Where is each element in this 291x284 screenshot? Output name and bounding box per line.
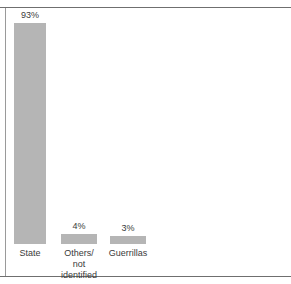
bar-value-label-others: 4% xyxy=(72,221,85,231)
bar-category-label-guerrillas: Guerrillas xyxy=(109,248,148,259)
bar-chart-figure: 93% State 4% Others/ not identified 3% G… xyxy=(0,0,291,284)
bar-rect-others xyxy=(61,234,97,244)
bar-category-label-others: Others/ not identified xyxy=(61,248,97,281)
bar-value-label-state: 93% xyxy=(21,10,39,20)
bar-category-label-state: State xyxy=(19,248,40,259)
bar-group-guerrillas: 3% Guerrillas xyxy=(110,236,146,244)
bar-group-state: 93% State xyxy=(14,23,46,244)
bar-rect-guerrillas xyxy=(110,236,146,244)
bar-group-others: 4% Others/ not identified xyxy=(61,234,97,244)
bar-value-label-guerrillas: 3% xyxy=(121,223,134,233)
bar-rect-state xyxy=(14,23,46,244)
plot-area: 93% State 4% Others/ not identified 3% G… xyxy=(6,8,291,276)
bottom-rule xyxy=(0,276,291,277)
